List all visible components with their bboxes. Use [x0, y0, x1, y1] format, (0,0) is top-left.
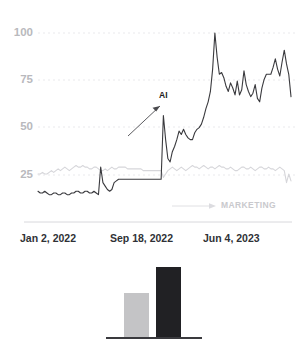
series-line-marketing: [38, 165, 291, 182]
y-tick-label-50: 50: [20, 120, 33, 132]
bar-chart-container: [0, 250, 306, 355]
x-tick-label-3: Jun 4, 2023: [203, 232, 260, 244]
marketing-arrow-head-icon: [209, 203, 216, 209]
ai-annotation: AI: [128, 90, 168, 136]
x-tick-label-2: Sep 18, 2022: [110, 232, 173, 244]
y-tick-label-100: 100: [14, 26, 33, 38]
x-tick-label-1: Jan 2, 2022: [20, 232, 76, 244]
bar-chart-svg: [0, 250, 306, 355]
chart-page: 100 75 50 25 AI MARKETING Jan 2, 20: [0, 0, 306, 355]
marketing-annotation: MARKETING: [172, 200, 276, 210]
y-tick-label-75: 75: [20, 73, 33, 85]
bar-baseline: [106, 337, 202, 339]
bar-light: [124, 293, 149, 337]
y-tick-label-25: 25: [20, 168, 33, 180]
series-line-ai: [38, 33, 291, 195]
line-chart-container: 100 75 50 25 AI MARKETING Jan 2, 20: [0, 0, 306, 250]
ai-arrow-head-icon: [153, 106, 161, 112]
line-chart-svg: 100 75 50 25 AI MARKETING Jan 2, 20: [0, 0, 306, 250]
bar-dark: [156, 267, 181, 337]
marketing-annotation-label: MARKETING: [221, 200, 276, 210]
ai-annotation-label: AI: [159, 90, 168, 100]
